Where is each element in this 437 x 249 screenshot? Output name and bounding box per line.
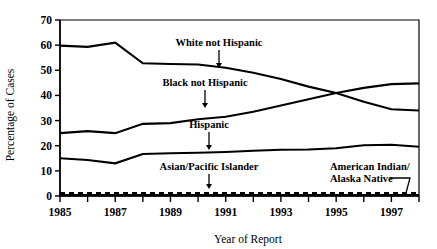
x-tick-label: 1987 [104, 206, 127, 218]
x-axis-title: Year of Report [214, 233, 283, 246]
x-tick-label: 1993 [269, 206, 292, 218]
line-chart: 010203040506070 198519871989199119931995… [0, 0, 437, 249]
y-tick-label: 50 [41, 64, 53, 76]
y-tick-label: 0 [46, 190, 52, 202]
annotation-label-asian-pacific-islander: Asian/Pacific Islander [160, 161, 259, 172]
y-tick-label: 20 [41, 140, 53, 152]
x-tick-label: 1989 [159, 206, 182, 218]
x-tick-label: 1997 [380, 206, 403, 218]
y-tick-label: 40 [41, 89, 53, 101]
x-tick-label: 1991 [214, 206, 237, 218]
y-tick-label: 30 [41, 115, 53, 127]
x-tick-label: 1995 [325, 206, 348, 218]
y-tick-label: 10 [41, 165, 53, 177]
annotation-label-american-indian-alaska-native-line1: American Indian/ [330, 161, 411, 172]
y-tick-label: 60 [41, 39, 53, 51]
annotation-label-white-not-hispanic: White not Hispanic [176, 37, 263, 48]
y-tick-label: 70 [41, 14, 53, 26]
annotation-label-hispanic: Hispanic [189, 119, 229, 130]
y-axis-title: Percentage of Cases [4, 68, 17, 161]
x-tick-label: 1985 [49, 206, 72, 218]
chart-container: 010203040506070 198519871989199119931995… [0, 0, 437, 249]
annotation-label-american-indian-alaska-native-line2: Alaska Native [330, 173, 393, 184]
annotation-label-black-not-hispanic: Black not Hispanic [162, 77, 248, 88]
